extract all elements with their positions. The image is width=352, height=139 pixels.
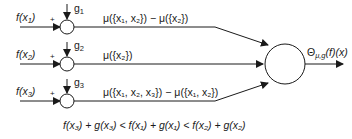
sum-node-2 xyxy=(60,57,74,71)
input-label-2: f(x2) xyxy=(16,49,35,62)
g-label-2: g2 xyxy=(74,40,84,53)
input-label-3: f(x3) xyxy=(16,86,35,99)
ordering-inequality: f(x₃) + g(x₃) < f(x₁) + g(x₁) < f(x₂) + … xyxy=(63,120,246,131)
mu-label-2: μ({x₂}) xyxy=(103,50,132,61)
sum-node-3 xyxy=(60,94,74,108)
input-label-1: f(x1) xyxy=(16,12,35,25)
g-label-3: g3 xyxy=(74,77,84,90)
mu-label-1: μ({x₁, x₂}) − μ({x₂}) xyxy=(103,13,188,24)
choquet-node xyxy=(265,44,305,84)
mu-line-1 xyxy=(74,27,268,45)
plus-sign-3: + xyxy=(50,90,55,98)
output-label: Θμ,g(f)(x) xyxy=(307,47,348,60)
plus-sign-1: + xyxy=(50,16,55,24)
mu-label-3: μ({x₁, x₂, x₃}) − μ({x₁, x₂}) xyxy=(103,87,218,98)
g-label-1: g1 xyxy=(74,3,84,16)
plus-sign-2: + xyxy=(50,53,55,61)
sum-node-1 xyxy=(60,20,74,34)
